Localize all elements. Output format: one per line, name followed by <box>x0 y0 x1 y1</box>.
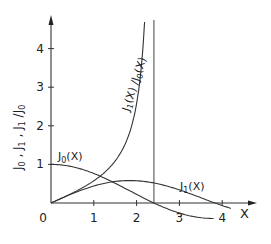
chart-canvas: 01234 1234 X J0 , J1 , J1 /J0 J0(X) J1(X… <box>0 0 271 244</box>
y-axis-label: J0 , J1 , J1 /J0 <box>11 105 27 171</box>
label-j1: J1(X) <box>179 180 204 195</box>
y-tick-labels: 1234 <box>36 42 44 172</box>
svg-text:J1(X) /J0(X): J1(X) /J0(X) <box>119 56 150 115</box>
x-tick-label: 2 <box>133 211 141 225</box>
x-tick-label: 1 <box>90 211 98 225</box>
label-ratio: J1(X) /J0(X) <box>119 56 150 115</box>
x-axis-arrow-icon <box>248 201 257 206</box>
label-j0: J0(X) <box>57 150 82 165</box>
y-tick-label: 2 <box>36 119 44 133</box>
y-tick-label: 3 <box>36 80 44 94</box>
x-tick-labels: 01234 <box>39 211 226 225</box>
x-tick-label: 0 <box>39 211 47 225</box>
x-tick-label: 4 <box>218 211 226 225</box>
svg-text:J0 , J1 , J1 /J0: J0 , J1 , J1 /J0 <box>11 105 27 171</box>
y-axis-arrow-icon <box>49 15 54 25</box>
x-axis-label: X <box>240 206 249 221</box>
y-tick-label: 1 <box>36 157 44 171</box>
y-tick-label: 4 <box>36 42 44 56</box>
chart: 01234 1234 X J0 , J1 , J1 /J0 J0(X) J1(X… <box>0 0 271 244</box>
